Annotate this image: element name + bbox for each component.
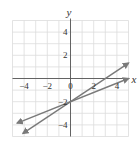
x-tick-label: −2 <box>43 81 53 91</box>
y-tick-label: 2 <box>63 50 68 60</box>
y-tick-label: −4 <box>58 120 68 130</box>
line-2 <box>17 79 128 124</box>
coordinate-plane: −4−202442−2−4 x y <box>0 0 137 150</box>
x-axis-label: x <box>131 73 137 85</box>
y-tick-label: 4 <box>63 27 68 37</box>
axes <box>13 19 130 137</box>
x-tick-label: 2 <box>91 81 96 91</box>
plotted-lines <box>17 63 128 133</box>
line-1 <box>23 63 129 133</box>
x-tick-label: 4 <box>115 81 120 91</box>
x-tick-label: −4 <box>19 81 29 91</box>
x-tick-label: 0 <box>68 81 73 91</box>
y-tick-label: −2 <box>58 97 68 107</box>
y-axis-label: y <box>66 6 72 18</box>
